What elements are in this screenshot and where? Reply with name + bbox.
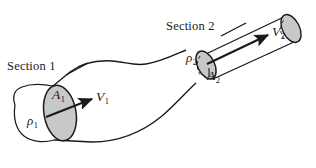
density2-subscript: 2 <box>193 57 197 67</box>
section1-leader-line <box>66 63 88 75</box>
duct-drawing <box>0 0 316 168</box>
velocity2-subscript: 2 <box>281 31 285 41</box>
area2-label: A2 <box>207 69 220 83</box>
fluid-duct-figure: Section 1 Section 2 A1 A2 V1 V2 ρ1 ρ2 <box>0 0 316 168</box>
area1-subscript: 1 <box>61 94 65 104</box>
section2-label: Section 2 <box>166 20 215 33</box>
density2-label: ρ2 <box>186 51 197 64</box>
density1-subscript: 1 <box>34 120 38 130</box>
density1-label: ρ1 <box>27 114 38 127</box>
section1-label: Section 1 <box>7 60 56 73</box>
area1-symbol: A <box>52 87 60 102</box>
velocity2-symbol: V <box>272 24 280 39</box>
area1-label: A1 <box>52 88 65 102</box>
section2-leader-line <box>221 23 246 36</box>
area2-symbol: A <box>207 68 215 83</box>
density1-symbol: ρ <box>27 113 33 128</box>
duct-body-small <box>208 11 305 79</box>
velocity1-subscript: 1 <box>105 96 109 106</box>
velocity1-label: V1 <box>96 90 109 104</box>
velocity1-symbol: V <box>96 89 104 104</box>
small-tube-bottom-contour <box>213 42 294 79</box>
area2-subscript: 2 <box>216 75 220 85</box>
density2-symbol: ρ <box>186 50 192 65</box>
velocity2-label: V2 <box>272 25 285 39</box>
duct-top-contour <box>53 50 186 86</box>
